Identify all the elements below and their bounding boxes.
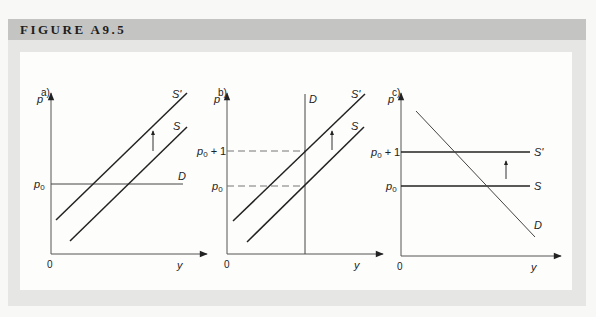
panel-a-p0-label: p0 xyxy=(33,178,45,192)
panel-a: a) p y 0 p0 D S' S xyxy=(33,87,207,271)
panel-c-s-label: S xyxy=(534,180,542,192)
panel-b: b) p y 0 p0 + 1 p0 D S' S xyxy=(196,87,383,271)
panel-a-y-label: p xyxy=(36,93,43,105)
panel-c-d-label: D xyxy=(534,219,542,231)
panel-c: c) p y 0 p0 + 1 p0 S' S D xyxy=(370,87,561,273)
panel-b-p0-label: p0 xyxy=(211,180,223,194)
panel-a-x-label: y xyxy=(176,259,184,271)
panel-b-p0plus1-label: p0 + 1 xyxy=(196,145,226,159)
panel-b-s-prime-label: S' xyxy=(351,88,361,100)
panel-b-y-label: p xyxy=(213,93,220,105)
panel-c-demand-line xyxy=(416,111,535,237)
panel-a-s-label: S xyxy=(173,120,181,132)
panel-b-d-label: D xyxy=(309,93,317,105)
panel-c-y-label: p xyxy=(387,93,394,105)
panel-b-supply-shifted-line xyxy=(233,94,365,221)
panel-a-d-label: D xyxy=(178,170,186,182)
panel-b-origin: 0 xyxy=(224,259,230,270)
panel-a-origin: 0 xyxy=(47,259,53,270)
panel-c-p0plus1-label: p0 + 1 xyxy=(370,146,400,160)
panel-b-x-label: y xyxy=(353,259,361,271)
panel-c-s-prime-label: S' xyxy=(534,146,544,158)
panel-c-origin: 0 xyxy=(397,261,403,272)
panel-c-x-label: y xyxy=(530,261,538,273)
panel-b-s-label: S xyxy=(351,120,359,132)
figure-svg: a) p y 0 p0 D S' S b) p y 0 p0 + 1 p0 D … xyxy=(0,0,596,317)
panel-c-p0-label: p0 xyxy=(385,180,397,194)
panel-a-s-prime-label: S' xyxy=(172,88,182,100)
panel-a-supply-shifted-line xyxy=(56,93,187,220)
